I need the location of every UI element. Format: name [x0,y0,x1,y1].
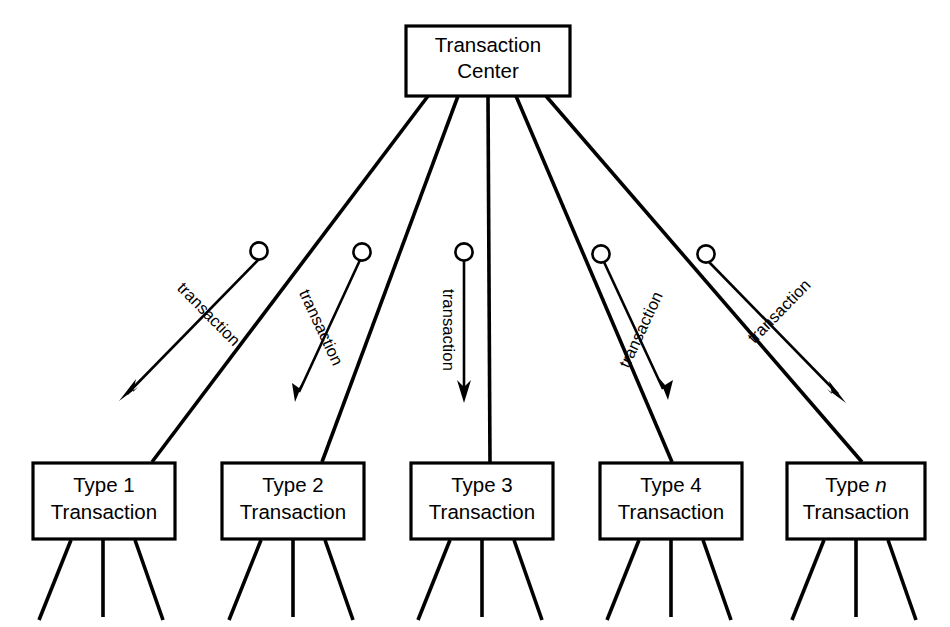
flow-arrowhead-4 [659,378,673,400]
flow-line-1 [127,256,262,394]
flow-label-1: transaction [174,278,244,349]
type-1-leg-left [39,540,71,620]
type-3-leg-left [418,540,450,620]
flow-arrowhead-2 [292,380,304,402]
type-1-leg-right [135,540,163,620]
type-1-label-line2: Transaction [51,500,157,523]
type-3-prefix: Type [451,473,501,496]
structure-line-type-1 [152,96,428,462]
type-n-value: n [875,473,886,496]
flow-origin-circle-4 [592,245,609,262]
flow-label-5: transaction [744,275,814,346]
type-n-leg-left [792,540,824,620]
structure-lines-group [152,96,862,462]
type-3-label-line1: Type 3 [451,473,513,496]
type-4-prefix: Type [640,473,690,496]
flow-arrowhead-1 [119,379,138,401]
transaction-type-node-1[interactable]: Type 1 Transaction [33,463,175,620]
flow-origin-circle-1 [250,242,267,259]
type-2-legs [229,540,353,620]
type-3-label-line2: Transaction [429,500,535,523]
type-4-legs [607,540,731,620]
type-n-prefix: Type [825,473,875,496]
transaction-type-node-3[interactable]: Type 3 Transaction [411,463,553,620]
transaction-center-label-line2: Center [457,59,519,82]
structure-line-type-2 [322,96,458,462]
flow-label-3: transaction [440,289,458,371]
type-2-label-line2: Transaction [240,500,346,523]
type-4-leg-right [703,540,731,620]
flow-label-2: transaction [296,286,347,368]
type-1-value: 1 [123,473,134,496]
transaction-type-node-2[interactable]: Type 2 Transaction [222,463,364,620]
flow-origin-circle-3 [455,243,472,260]
flow-labels-group: transaction transaction transaction tran… [174,275,814,371]
diagram-canvas: transaction transaction transaction tran… [0,0,950,627]
type-n-legs [792,540,916,620]
flow-origin-circle-5 [697,245,714,262]
type-n-label-line2: Transaction [803,500,909,523]
type-2-prefix: Type [262,473,312,496]
flow-arrowhead-5 [827,381,846,403]
type-4-label-line1: Type 4 [640,473,702,496]
type-2-label-line1: Type 2 [262,473,324,496]
transaction-type-node-5[interactable]: Type n Transaction [787,463,925,620]
type-3-value: 3 [501,473,512,496]
type-3-legs [418,540,542,620]
transaction-center-diagram: transaction transaction transaction tran… [0,0,950,627]
type-2-value: 2 [312,473,323,496]
transaction-center-label-line1: Transaction [435,33,541,56]
data-flow-arrow-2 [292,243,371,402]
type-1-prefix: Type [73,473,123,496]
type-3-leg-right [514,540,542,620]
transaction-type-node-4[interactable]: Type 4 Transaction [600,463,742,620]
data-flow-arrow-1 [119,242,268,401]
flow-origin-circle-2 [353,243,370,260]
type-2-leg-left [229,540,261,620]
type-n-label-line1: Type n [825,473,887,496]
transaction-center-node[interactable]: Transaction Center [406,26,570,96]
structure-line-type-3 [488,96,490,462]
type-4-value: 4 [690,473,701,496]
type-2-leg-right [325,540,353,620]
type-4-leg-left [607,540,639,620]
type-1-label-line1: Type 1 [73,473,135,496]
type-4-label-line2: Transaction [618,500,724,523]
type-n-leg-right [888,540,916,620]
type-1-legs [39,540,163,620]
